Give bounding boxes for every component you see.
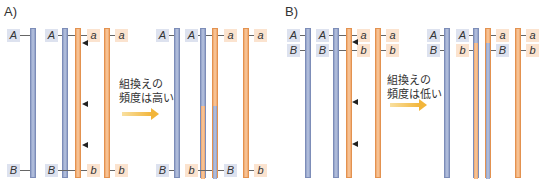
caption-line1: 組換えの <box>387 73 431 87</box>
locus-label: A <box>45 29 58 42</box>
locus-label: a <box>87 29 100 42</box>
locus-label: B <box>45 164 58 177</box>
recombinant-chromatid-1 <box>200 28 206 178</box>
chromatid-blue-2 <box>333 28 339 178</box>
locus-label: A <box>456 29 469 42</box>
locus-label: b <box>185 164 198 177</box>
chromatid-blue-1 <box>444 28 450 178</box>
chromatid-orange-2 <box>243 28 249 178</box>
locus-label: A <box>185 29 198 42</box>
locus-label: a <box>224 29 237 42</box>
locus-label: A <box>7 29 20 42</box>
tick <box>20 170 30 171</box>
locus-label: b <box>87 164 100 177</box>
crossover-marker-icon <box>82 142 88 148</box>
chromatid-blue-1 <box>305 28 311 178</box>
locus-label: b <box>386 44 399 57</box>
locus-label: b <box>357 44 370 57</box>
locus-label: b <box>526 44 539 57</box>
tick <box>169 170 174 171</box>
locus-label: a <box>496 29 509 42</box>
crossover-marker-icon <box>352 39 358 45</box>
panel-b-label: B) <box>285 4 298 19</box>
crossover-marker-icon <box>82 101 88 107</box>
locus-label: A <box>316 29 329 42</box>
locus-label: B <box>7 164 20 177</box>
caption-line2: 頻度は高い <box>119 91 174 105</box>
locus-label: b <box>254 164 267 177</box>
locus-label: b <box>456 44 469 57</box>
tick <box>198 170 213 171</box>
chromatid-blue-2 <box>62 28 68 178</box>
locus-label: A <box>156 29 169 42</box>
locus-label: a <box>115 29 128 42</box>
locus-label: b <box>115 164 128 177</box>
caption-line2: 頻度は低い <box>387 87 442 101</box>
locus-label: B <box>287 44 300 57</box>
chromatid-blue-1 <box>174 28 180 178</box>
locus-label: a <box>526 29 539 42</box>
recombinant-chromatid-1 <box>473 28 479 178</box>
locus-label: a <box>254 29 267 42</box>
locus-label: a <box>357 29 370 42</box>
right-arrow-icon <box>390 103 420 107</box>
right-arrow-icon <box>122 112 152 116</box>
tick <box>20 35 30 36</box>
locus-label: B <box>316 44 329 57</box>
recombinant-chromatid-2 <box>212 28 218 178</box>
crossover-marker-icon <box>82 40 88 46</box>
panel-a-label: A) <box>4 4 17 19</box>
chromatid-blue-1 <box>30 28 36 178</box>
crossover-marker-icon <box>352 141 358 147</box>
locus-label: a <box>386 29 399 42</box>
locus-label: A <box>427 29 440 42</box>
chromatid-orange-1 <box>75 28 81 178</box>
chromatid-orange-2 <box>104 28 110 178</box>
crossover-marker-icon <box>352 99 358 105</box>
locus-label: B <box>427 44 440 57</box>
caption-line1: 組換えの <box>119 77 163 91</box>
locus-label: B <box>224 164 237 177</box>
locus-label: B <box>496 44 509 57</box>
locus-label: A <box>287 29 300 42</box>
locus-label: B <box>156 164 169 177</box>
